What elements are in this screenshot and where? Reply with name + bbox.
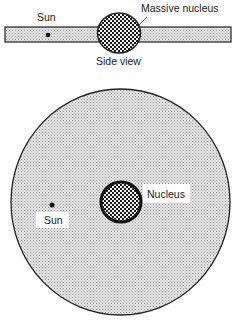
sun-dot-side: [46, 33, 51, 38]
sun-dot-top: [50, 203, 55, 208]
galaxy-diagram: Sun Massive nucleus Side view Nucleus Su…: [0, 0, 235, 329]
nucleus-top: [101, 182, 141, 222]
sun-label-side: Sun: [37, 11, 56, 23]
top-view: Nucleus Sun: [11, 89, 230, 315]
side-view: Sun Massive nucleus Side view: [5, 2, 231, 67]
massive-nucleus-side: [98, 13, 141, 53]
massive-nucleus-label: Massive nucleus: [141, 2, 219, 14]
nucleus-leader-line: [139, 17, 147, 25]
sun-label-top: Sun: [44, 214, 63, 226]
side-view-caption: Side view: [96, 55, 141, 67]
nucleus-label-top: Nucleus: [147, 188, 185, 200]
